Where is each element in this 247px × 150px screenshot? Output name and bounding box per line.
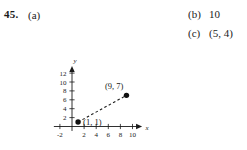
- x-axis-tick-label: 6: [107, 131, 111, 139]
- point-labels-group: (1, 1)(9, 7): [83, 81, 124, 127]
- y-axis-tick-label: 4: [63, 105, 67, 113]
- x-axis-tick-label: 10: [129, 131, 137, 139]
- y-axis-tick-label: 8: [63, 87, 67, 95]
- figure-page: 45. (a) (b) 10 (c) (5, 4) -2246810246810…: [0, 0, 247, 150]
- data-point: [124, 93, 129, 98]
- x-axis-tick-label: 8: [119, 131, 123, 139]
- y-axis-tick-label: 10: [60, 79, 68, 87]
- data-point-label: (1, 1): [83, 117, 102, 127]
- y-axis-tick-label: 6: [63, 96, 67, 104]
- x-axis-tick-label: 4: [94, 131, 98, 139]
- tick-labels-group: -224681024681012: [57, 70, 137, 139]
- y-axis-tick-label: 2: [63, 114, 67, 122]
- y-axis-tick-label: 12: [60, 70, 68, 78]
- x-axis-tick-label: 2: [82, 131, 86, 139]
- data-point-label: (9, 7): [105, 81, 124, 91]
- coordinate-plot: -224681024681012 (1, 1)(9, 7) xy: [0, 0, 247, 150]
- data-point: [75, 119, 80, 124]
- x-axis-label: x: [145, 124, 150, 132]
- x-axis-arrow-icon: [136, 124, 142, 129]
- x-axis-tick-label: -2: [57, 131, 63, 139]
- plot-svg: -224681024681012 (1, 1)(9, 7) xy: [0, 0, 247, 150]
- y-axis-label: y: [73, 57, 78, 65]
- y-axis-arrow-icon: [69, 66, 74, 72]
